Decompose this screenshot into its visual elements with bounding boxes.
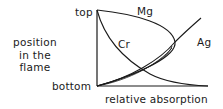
curve-mg-inner — [97, 46, 172, 86]
curve-ag — [97, 18, 201, 86]
axes — [97, 10, 208, 86]
curve-ag-double — [97, 48, 172, 86]
curve-cr — [97, 10, 208, 86]
flame-absorption-diagram — [0, 0, 223, 109]
curve-mg — [97, 10, 175, 86]
